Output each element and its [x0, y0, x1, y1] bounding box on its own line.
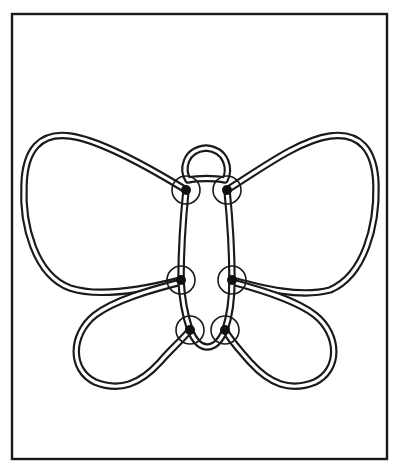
diagram-frame	[12, 14, 387, 459]
joint-dot	[181, 185, 191, 195]
joint-dot	[220, 325, 230, 335]
joint-dot	[222, 185, 232, 195]
joint-dot	[227, 275, 237, 285]
joint-dot	[176, 275, 186, 285]
joint-dot	[185, 325, 195, 335]
butterfly-diagram	[0, 0, 395, 467]
